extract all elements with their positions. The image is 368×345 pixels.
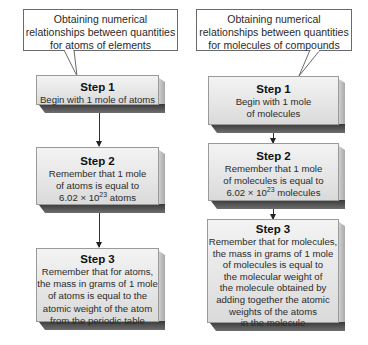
- step-title: Step 1: [37, 80, 158, 94]
- exp-base: 6.02 × 10: [59, 192, 99, 203]
- arrow-down-icon: [99, 213, 100, 247]
- step-text: the molecule obtained by: [208, 282, 338, 294]
- callout-line: relationships between quantities: [197, 26, 351, 39]
- arrow-down-icon: [273, 133, 274, 143]
- step-text: Remember that for atoms,: [37, 266, 158, 278]
- box-bottom-shadow: [211, 124, 345, 133]
- exp-power: 23: [267, 186, 275, 193]
- right-callout-tail: [296, 50, 326, 78]
- box-bottom-shadow: [39, 204, 165, 213]
- box-front: Step 2 Remember that 1 mole of molecules…: [208, 143, 339, 201]
- box-side: [339, 146, 345, 206]
- step-title: Step 3: [37, 252, 158, 266]
- step-text: of molecules: [209, 108, 338, 120]
- step-text: Begin with 1 mole: [209, 96, 338, 108]
- right-step-3-box: Step 3 Remember that for molecules, the …: [207, 219, 345, 331]
- callout-line: for molecules of compounds: [197, 39, 351, 52]
- box-front: Step 3 Remember that for molecules, the …: [207, 219, 339, 323]
- step-text: of molecules is equal to: [208, 259, 338, 271]
- step-text: the molecular weight of: [208, 271, 338, 283]
- box-front: Step 3 Remember that for atoms, the mass…: [36, 248, 159, 322]
- left-step-1-box: Step 1 Begin with 1 mole of atoms: [36, 75, 165, 113]
- step-text: Remember that for molecules,: [208, 236, 338, 248]
- box-bottom-shadow: [211, 200, 345, 209]
- box-front: Step 1 Begin with 1 mole of molecules: [208, 76, 339, 125]
- exp-suffix: molecules: [275, 187, 321, 198]
- step-text: from the periodic table: [37, 315, 158, 327]
- step-text: Begin with 1 mole of atoms: [37, 94, 158, 106]
- step-text-exponent-line: 6.02 × 1023 molecules: [209, 187, 338, 199]
- step-title: Step 2: [209, 149, 338, 163]
- step-text: of atoms is equal to: [37, 180, 158, 192]
- callout-line: for atoms of elements: [24, 39, 177, 52]
- step-text: Remember that 1 mole: [37, 168, 158, 180]
- exp-suffix: atoms: [107, 192, 136, 203]
- step-title: Step 1: [209, 82, 338, 96]
- callout-line: Obtaining numerical: [197, 13, 351, 26]
- left-step-2-box: Step 2 Remember that 1 mole of atoms is …: [36, 147, 165, 213]
- step-text-exponent-line: 6.02 × 1023 atoms: [37, 192, 158, 204]
- right-step-2-box: Step 2 Remember that 1 mole of molecules…: [208, 143, 345, 209]
- step-text: the mass in grams of 1 mole: [37, 278, 158, 290]
- step-text: weights of the atoms: [208, 306, 338, 318]
- right-callout: Obtaining numerical relationships betwee…: [196, 9, 352, 51]
- step-text: atomic weight of the atom: [37, 303, 158, 315]
- exp-base: 6.02 × 10: [227, 187, 267, 198]
- box-front: Step 2 Remember that 1 mole of atoms is …: [36, 147, 159, 205]
- exp-power: 23: [99, 191, 107, 198]
- box-side: [159, 150, 165, 210]
- box-side: [339, 79, 345, 130]
- callout-line: relationships between quantities: [24, 26, 177, 39]
- step-title: Step 2: [37, 154, 158, 168]
- step-text: in the molecule: [208, 317, 338, 329]
- right-step-1-box: Step 1 Begin with 1 mole of molecules: [208, 76, 345, 133]
- step-text: Remember that 1 mole: [209, 163, 338, 175]
- box-side: [159, 251, 165, 327]
- step-text: adding together the atomic: [208, 294, 338, 306]
- arrow-down-icon: [273, 209, 274, 219]
- left-callout: Obtaining numerical relationships betwee…: [23, 9, 178, 51]
- left-callout-tail: [60, 50, 90, 78]
- step-text: of atoms is equal to the: [37, 290, 158, 302]
- left-step-3-box: Step 3 Remember that for atoms, the mass…: [36, 248, 165, 330]
- step-text: the mass in grams of 1 mole: [208, 248, 338, 260]
- callout-line: Obtaining numerical: [24, 13, 177, 26]
- step-title: Step 3: [208, 222, 338, 236]
- arrow-down-icon: [99, 113, 100, 146]
- box-side: [339, 222, 345, 328]
- box-front: Step 1 Begin with 1 mole of atoms: [36, 75, 159, 105]
